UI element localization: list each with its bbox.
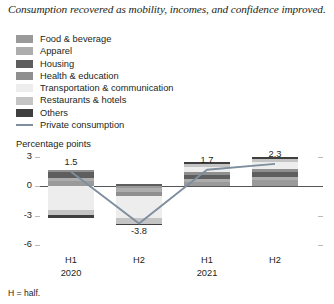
y-axis-tick-mark-right: [318, 245, 323, 246]
stacked-bar: [48, 170, 94, 187]
y-axis-tick-mark-right: [318, 216, 323, 217]
bar-segment: [48, 172, 94, 179]
stacked-bar: [116, 186, 162, 225]
bar-segment: [48, 215, 94, 217]
bar-data-label: 1.7: [174, 155, 240, 165]
x-axis-tick-label: H1: [174, 255, 240, 265]
x-axis-year-label: 2020: [38, 268, 104, 278]
y-axis-tick-label: -6: [10, 239, 32, 249]
stacked-bar: [48, 186, 94, 217]
plot-area: 30-3-61.5H1-3.8H21.7H12.3H220202021: [0, 0, 334, 304]
bar-segment: [252, 162, 298, 169]
chart-footnote: H = half.: [8, 288, 40, 298]
y-axis-tick-label: 0: [10, 180, 32, 190]
stacked-bar: [184, 162, 230, 186]
bar-data-label: -3.8: [106, 226, 172, 236]
chart-container: Consumption recovered as mobility, incom…: [0, 0, 334, 304]
bar-segment: [252, 180, 298, 186]
y-axis-tick-label: -3: [10, 210, 32, 220]
x-axis-year-label: 2021: [174, 268, 240, 278]
bar-segment: [48, 186, 94, 209]
y-axis-tick-label: 3: [10, 151, 32, 161]
x-axis-tick-label: H1: [38, 255, 104, 265]
bar-segment: [116, 224, 162, 225]
bar-segment: [116, 196, 162, 218]
bar-segment: [184, 182, 230, 186]
x-axis-tick-label: H2: [106, 255, 172, 265]
y-axis-tick-mark-right: [318, 157, 323, 158]
x-axis-tick-label: H2: [242, 255, 308, 265]
bar-data-label: 2.3: [242, 149, 308, 159]
y-axis-tick-mark: [35, 216, 40, 217]
y-axis-tick-mark: [35, 245, 40, 246]
stacked-bar: [252, 157, 298, 186]
bar-data-label: 1.5: [38, 157, 104, 167]
